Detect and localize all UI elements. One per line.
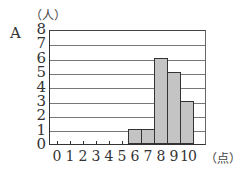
x-axis-unit-label: （点） — [205, 149, 241, 166]
x-tick-mark — [83, 141, 84, 144]
y-tick-0: 0 — [32, 137, 46, 152]
x-tick-mark — [57, 141, 58, 144]
x-tick-4: 4 — [103, 149, 115, 163]
bar-7 — [141, 129, 155, 144]
bar-8 — [154, 58, 168, 144]
x-tick-mark — [122, 141, 123, 144]
x-tick-6: 6 — [129, 149, 141, 163]
x-tick-2: 2 — [77, 149, 89, 163]
gridline — [50, 60, 205, 61]
bar-6 — [128, 129, 142, 144]
x-tick-7: 7 — [142, 149, 154, 163]
bar-9 — [167, 72, 181, 144]
bar-10 — [180, 101, 194, 144]
x-tick-10: 10 — [178, 149, 198, 163]
gridline — [50, 74, 205, 75]
plot-area — [49, 30, 206, 145]
x-tick-mark — [109, 141, 110, 144]
x-tick-8: 8 — [155, 149, 167, 163]
x-tick-1: 1 — [64, 149, 76, 163]
x-tick-mark — [96, 141, 97, 144]
gridline — [50, 88, 205, 89]
y-axis-unit-label: （人） — [30, 6, 66, 23]
chart-title: A — [10, 26, 21, 41]
x-tick-5: 5 — [116, 149, 128, 163]
x-tick-0: 0 — [51, 149, 63, 163]
x-tick-3: 3 — [90, 149, 102, 163]
gridline — [50, 45, 205, 46]
x-tick-mark — [70, 141, 71, 144]
